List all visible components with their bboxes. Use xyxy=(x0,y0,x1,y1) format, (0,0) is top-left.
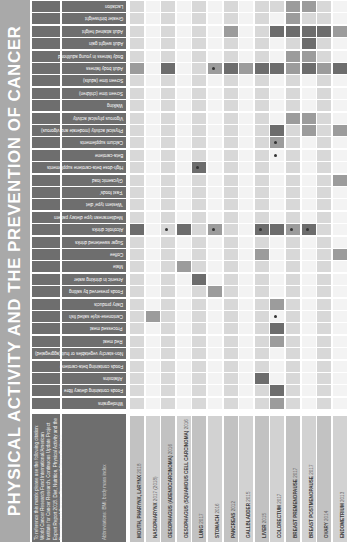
matrix-cell xyxy=(146,286,160,297)
matrix-cell xyxy=(317,26,331,37)
matrix-cell xyxy=(161,212,175,223)
cancer-label: OVARY 2014 xyxy=(324,511,329,538)
matrix-cell xyxy=(161,249,175,260)
matrix-cell xyxy=(239,212,253,223)
matrix-cell xyxy=(239,150,253,161)
matrix-cell xyxy=(286,187,300,198)
matrix-cell xyxy=(192,199,206,210)
matrix-cell xyxy=(270,224,284,235)
matrix-cell xyxy=(161,150,175,161)
matrix-cell xyxy=(255,199,269,210)
matrix-cell xyxy=(177,311,191,322)
exposure-label: Alcoholic drinks xyxy=(92,224,123,235)
matrix-cell xyxy=(286,398,300,409)
matrix-cell xyxy=(208,373,222,384)
matrix-cell xyxy=(333,63,347,74)
matrix-cell xyxy=(192,361,206,372)
matrix-cell xyxy=(255,88,269,99)
cancer-year: 2012 xyxy=(231,501,236,511)
matrix-cell xyxy=(224,26,238,37)
matrix-cell xyxy=(333,361,347,372)
exposure-side-band xyxy=(32,63,60,74)
exposure-row-header: Dairy products xyxy=(62,299,126,310)
matrix-cell xyxy=(130,299,144,310)
matrix-cell xyxy=(208,336,222,347)
matrix-cell xyxy=(317,286,331,297)
matrix-cell xyxy=(146,237,160,248)
exposure-row-header: 'Fast foods' xyxy=(62,187,126,198)
matrix-cell xyxy=(239,286,253,297)
exposure-label: Beta-carotene xyxy=(95,150,123,161)
exposure-side-band xyxy=(32,261,60,272)
exposure-label: Lactation xyxy=(105,1,123,12)
matrix-cell xyxy=(146,150,160,161)
cancer-year: 2014 xyxy=(324,511,329,521)
matrix-cell xyxy=(208,274,222,285)
exposure-side-band xyxy=(32,187,60,198)
cancer-name: MOUTH, PHARYNX, LARYNX xyxy=(137,474,142,538)
exposure-row-header: Adult weight gain xyxy=(62,38,126,49)
matrix-cell xyxy=(177,38,191,49)
matrix-cell xyxy=(317,125,331,136)
matrix-cell xyxy=(224,261,238,272)
matrix-cell xyxy=(177,150,191,161)
matrix-cell xyxy=(239,336,253,347)
matrix-cell xyxy=(146,299,160,310)
footnote-marker-icon xyxy=(259,228,262,231)
matrix-cell xyxy=(192,88,206,99)
matrix-cell xyxy=(224,175,238,186)
exposure-side-band xyxy=(32,1,60,12)
matrix-cell xyxy=(333,274,347,285)
matrix-cell xyxy=(177,286,191,297)
matrix-cell xyxy=(130,274,144,285)
cancer-label: BREAST POSTMENOPAUSE 2017 xyxy=(309,465,314,538)
matrix-cell xyxy=(177,385,191,396)
matrix-cell xyxy=(302,38,316,49)
exposure-side-band xyxy=(32,100,60,111)
matrix-cell xyxy=(333,224,347,235)
matrix-cell xyxy=(286,175,300,186)
matrix-cell xyxy=(270,137,284,148)
matrix-cell xyxy=(239,385,253,396)
matrix-cell xyxy=(208,26,222,37)
matrix-cell xyxy=(255,150,269,161)
abbreviations-box: Abbreviations: BMI, body mass index xyxy=(62,414,126,542)
matrix-cell xyxy=(317,13,331,24)
matrix-cell xyxy=(333,137,347,148)
matrix-cell xyxy=(302,373,316,384)
matrix-cell xyxy=(192,385,206,396)
matrix-cell xyxy=(302,286,316,297)
matrix-cell xyxy=(270,199,284,210)
matrix-cell xyxy=(239,75,253,86)
matrix-cell xyxy=(224,212,238,223)
matrix-cell xyxy=(130,175,144,186)
matrix-cell xyxy=(302,125,316,136)
matrix-cell xyxy=(177,75,191,86)
matrix-cell xyxy=(130,261,144,272)
matrix-cell xyxy=(302,88,316,99)
matrix-cell xyxy=(270,88,284,99)
matrix-cell xyxy=(270,75,284,86)
cancer-label: OESOPHAGUS (ADENOCARCINOMA) 2016 xyxy=(168,444,173,538)
matrix-cell xyxy=(192,1,206,12)
matrix-cell xyxy=(270,261,284,272)
matrix-cell xyxy=(130,249,144,260)
exposure-side-band xyxy=(32,51,60,62)
matrix-cell xyxy=(130,125,144,136)
exposure-label: 'Western type' diet xyxy=(86,199,123,210)
matrix-cell xyxy=(208,162,222,173)
matrix-cell xyxy=(286,323,300,334)
matrix-cell xyxy=(146,162,160,173)
matrix-cell xyxy=(146,51,160,62)
matrix-cell xyxy=(302,336,316,347)
matrix-cell xyxy=(239,1,253,12)
exposure-side-band xyxy=(32,311,60,322)
matrix-cell xyxy=(192,137,206,148)
matrix-cell xyxy=(239,137,253,148)
matrix-cell xyxy=(333,13,347,24)
matrix-cell xyxy=(130,286,144,297)
exposure-side-band xyxy=(32,13,60,24)
matrix-cell xyxy=(239,175,253,186)
cancer-name: LIVER xyxy=(262,523,267,538)
matrix-cell xyxy=(255,361,269,372)
